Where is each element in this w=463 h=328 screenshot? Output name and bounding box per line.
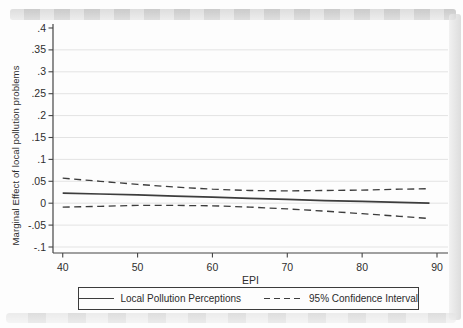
legend-label-local-pollution-perceptions: Local Pollution Perceptions xyxy=(120,293,241,304)
series-line-ci-upper xyxy=(63,178,430,191)
legend-dashed-line-swatch xyxy=(264,298,303,300)
series-line-ci-lower xyxy=(63,205,430,218)
y-tick-label: .25 xyxy=(31,87,46,99)
y-axis-title: Marginal Effect of local pollution probl… xyxy=(10,31,23,281)
legend-solid-line-swatch xyxy=(79,298,114,299)
y-tick-label: .4 xyxy=(37,22,46,34)
marginal-effect-figure: .4.35.3.25.2.15.1.050-.05-.1405060708090… xyxy=(0,0,463,328)
chart-plot-area: .4.35.3.25.2.15.1.050-.05-.1405060708090 xyxy=(0,0,463,275)
x-axis-title: EPI xyxy=(53,274,448,286)
scan-shadow-bottom xyxy=(6,313,456,323)
y-tick-label: .35 xyxy=(31,43,46,55)
series-line-local-pollution-perceptions xyxy=(63,193,430,203)
y-tick-label: 0 xyxy=(40,197,46,209)
x-tick-label: 40 xyxy=(57,261,69,273)
legend-label-confidence-interval: 95% Confidence Interval xyxy=(309,293,418,304)
y-tick-label: -.1 xyxy=(34,241,46,253)
y-tick-label: .2 xyxy=(37,109,46,121)
legend: Local Pollution Perceptions 95% Confiden… xyxy=(78,287,419,310)
y-tick-label: .15 xyxy=(31,131,46,143)
y-tick-label: .3 xyxy=(37,65,46,77)
x-tick-label: 90 xyxy=(431,261,443,273)
x-tick-label: 80 xyxy=(356,261,368,273)
y-tick-label: .05 xyxy=(31,175,46,187)
x-tick-label: 50 xyxy=(132,261,144,273)
x-tick-label: 60 xyxy=(207,261,219,273)
y-tick-label: .1 xyxy=(37,153,46,165)
y-tick-label: -.05 xyxy=(28,219,46,231)
x-tick-label: 70 xyxy=(281,261,293,273)
